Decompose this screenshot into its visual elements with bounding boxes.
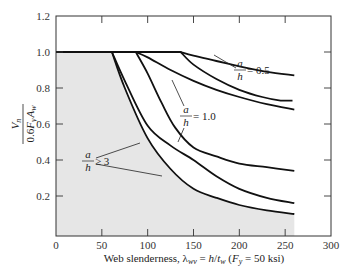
annotation-rel: ≥ 3 xyxy=(95,155,110,167)
annotation-rel: = 0.5 xyxy=(247,64,270,76)
y-tick-label: 0.6 xyxy=(36,118,50,130)
y-title-num-sub: n xyxy=(14,119,23,123)
annotation-ah-1.0: a h = 1.0 xyxy=(180,103,216,128)
x-tick-label: 250 xyxy=(277,239,294,251)
y-title-den-pre: 0.6 xyxy=(24,128,36,142)
annotation-num: a xyxy=(183,103,189,115)
svg-text:Vn: Vn xyxy=(9,119,23,130)
x-title-prefix: Web slenderness, xyxy=(104,252,183,264)
x-tick-label: 50 xyxy=(96,239,108,251)
x-axis-title: Web slenderness, λwv = h/tw (Fy = 50 ksi… xyxy=(104,252,285,266)
annotation-ah-0.5: a h = 0.5 xyxy=(234,57,270,82)
annotation-den: h xyxy=(237,70,243,82)
annotation-den: h xyxy=(183,116,189,128)
shear-strength-chart: 0501001502002503000.20.40.60.81.01.2 Vn … xyxy=(0,0,349,266)
annotation-num: a xyxy=(237,57,243,69)
y-axis-title: Vn 0.6FyAw xyxy=(9,104,38,144)
x-tick-label: 100 xyxy=(139,239,156,251)
y-tick-label: 1.2 xyxy=(36,10,50,22)
x-title-eq: = xyxy=(197,252,209,264)
y-tick-label: 0.8 xyxy=(36,82,50,94)
x-title-tail: = 50 ksi) xyxy=(242,252,284,265)
annotation-num: a xyxy=(85,148,91,160)
annotation-leader xyxy=(178,128,184,142)
svg-text:0.6FyAw: 0.6FyAw xyxy=(24,105,38,143)
x-tick-label: 200 xyxy=(231,239,248,251)
x-tick-label: 0 xyxy=(53,239,59,251)
y-title-den-a-sub: w xyxy=(29,105,38,111)
y-title-den-f-sub: y xyxy=(29,118,38,123)
y-tick-label: 1.0 xyxy=(36,46,50,58)
annotation-den: h xyxy=(85,161,91,173)
annotation-leader xyxy=(172,80,184,106)
x-tick-label: 300 xyxy=(323,239,340,251)
annotation-rel: = 1.0 xyxy=(193,110,216,122)
y-tick-label: 0.4 xyxy=(36,154,50,166)
y-tick-label: 0.2 xyxy=(36,190,50,202)
x-tick-label: 150 xyxy=(185,239,202,251)
